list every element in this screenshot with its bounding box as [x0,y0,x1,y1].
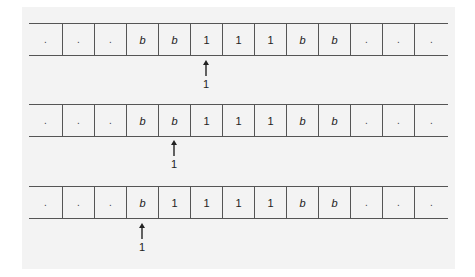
cell-symbol: . [109,197,112,208]
cell-symbol: . [365,197,368,208]
tape-cell: . [62,187,94,218]
tape-cell: 1 [254,24,286,55]
tape-cell: 1 [158,187,190,218]
cell-symbol: . [44,197,47,208]
cell-symbol: b [331,115,337,127]
tape-cell: . [382,187,414,218]
tape-cell: . [94,24,126,55]
cell-symbol: b [331,197,337,209]
tape-cell: b [318,105,350,136]
tape-cell: 1 [190,187,222,218]
tape-cell: . [29,105,62,136]
tape-3: ...b1111bb... [29,186,448,219]
tape-cell: . [414,24,448,55]
tape-head-3: 1 [132,223,152,253]
cell-symbol: b [299,34,305,46]
up-arrow-icon [202,60,210,76]
tape-cell: 1 [190,105,222,136]
tape-cell: 1 [254,187,286,218]
tape-cell: . [94,187,126,218]
tape-cell: b [318,24,350,55]
cell-symbol: b [171,34,177,46]
cell-symbol: 1 [203,115,209,127]
tape-cell: . [29,187,62,218]
tape-cell: b [158,24,190,55]
cell-symbol: . [397,197,400,208]
up-arrow-icon [138,223,146,239]
cell-symbol: 1 [171,197,177,209]
tape-cell: b [126,187,158,218]
tape-cell: . [414,187,448,218]
tape-cell: . [414,105,448,136]
cell-symbol: b [139,34,145,46]
head-state-label: 1 [132,241,152,253]
tape-head-1: 1 [196,60,216,90]
cell-symbol: b [299,197,305,209]
tape-cell: . [382,24,414,55]
cell-symbol: 1 [267,115,273,127]
tape-cell: b [286,105,318,136]
cell-symbol: . [365,34,368,45]
tape-cell: b [286,24,318,55]
cell-symbol: 1 [203,197,209,209]
cell-symbol: b [299,115,305,127]
cell-symbol: b [139,115,145,127]
tape-cell: 1 [254,105,286,136]
cell-symbol: b [171,115,177,127]
cell-symbol: 1 [267,34,273,46]
cell-symbol: . [109,115,112,126]
cell-symbol: . [397,115,400,126]
tape-cell: . [62,24,94,55]
tape-cell: b [126,24,158,55]
tape-cell: b [318,187,350,218]
tape-cell: . [29,24,62,55]
tape-cell: b [158,105,190,136]
tape-cell: . [350,187,382,218]
cell-symbol: 1 [203,34,209,46]
tape-cell: 1 [190,24,222,55]
cell-symbol: b [331,34,337,46]
tape-cell: 1 [222,105,254,136]
cell-symbol: . [430,34,433,45]
tape-cell: . [382,105,414,136]
cell-symbol: b [139,197,145,209]
cell-symbol: . [77,115,80,126]
tape-cell: . [94,105,126,136]
tape-cell: . [62,105,94,136]
cell-symbol: 1 [267,197,273,209]
cell-symbol: . [44,115,47,126]
cell-symbol: . [365,115,368,126]
tape-cell: 1 [222,187,254,218]
tape-cell: 1 [222,24,254,55]
cell-symbol: . [44,34,47,45]
tape-head-2: 1 [164,140,184,170]
cell-symbol: . [77,197,80,208]
head-state-label: 1 [164,158,184,170]
cell-symbol: . [397,34,400,45]
cell-symbol: 1 [235,197,241,209]
cell-symbol: 1 [235,34,241,46]
tape-cell: . [350,24,382,55]
tape-2: ...bb111bb... [29,104,448,137]
cell-symbol: . [77,34,80,45]
cell-symbol: 1 [235,115,241,127]
up-arrow-icon [170,140,178,156]
tape-cell: b [126,105,158,136]
tape-cell: b [286,187,318,218]
cell-symbol: . [109,34,112,45]
cell-symbol: . [430,115,433,126]
cell-symbol: . [430,197,433,208]
tape-cell: . [350,105,382,136]
tape-1: ...bb111bb... [29,23,448,56]
head-state-label: 1 [196,78,216,90]
